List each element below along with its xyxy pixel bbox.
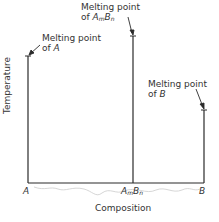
- x-tick-ambn: AmBn: [121, 186, 143, 198]
- diagram-canvas: [0, 0, 219, 222]
- x-tick-b: B: [199, 186, 205, 196]
- x-tick-a: A: [23, 186, 29, 196]
- annotation-melting-point-a: Melting point of A: [42, 33, 101, 53]
- annotation-melting-point-b: Melting point of B: [148, 79, 207, 99]
- annotation-melting-point-ambn: Melting point of AmBn: [81, 2, 140, 24]
- y-axis-label: Temperature: [2, 57, 12, 114]
- torn-edge-decoration: [34, 187, 200, 195]
- x-axis-label: Composition: [95, 203, 151, 213]
- arrow-a: [29, 45, 40, 55]
